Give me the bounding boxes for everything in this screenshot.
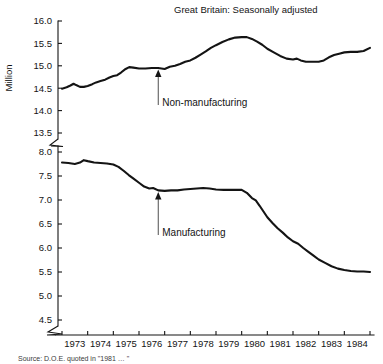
y-tick-label: 6.5	[39, 218, 52, 229]
x-tick-label: 1981	[270, 338, 291, 349]
series-label-manufacturing: Manufacturing	[162, 227, 225, 238]
y-tick-label: 5.0	[39, 290, 52, 301]
x-tick-label: 1984	[347, 338, 368, 349]
y-tick-label: 15.0	[34, 60, 53, 71]
chart-title: Great Britain: Seasonally adjusted	[174, 4, 318, 15]
series-label-non-manufacturing: Non-manufacturing	[162, 97, 247, 108]
y-axis-ticklabels-lower: 8.07.57.06.56.05.55.04.5	[39, 146, 52, 325]
y-tick-label: 14.0	[34, 105, 53, 116]
x-tick-label: 1979	[218, 338, 239, 349]
x-axis-ticklabels: 1973197419751976197719781979198019811982…	[64, 338, 367, 349]
y-tick-label: 7.5	[39, 170, 52, 181]
y-tick-label: 7.0	[39, 194, 52, 205]
data-line-manufacturing	[62, 160, 370, 272]
x-tick-label: 1974	[90, 338, 111, 349]
y-axis-tickmarks	[58, 21, 62, 320]
x-tick-label: 1973	[64, 338, 85, 349]
source-note: Source: D.O.E. quoted in "1981 … "	[18, 355, 130, 363]
x-tick-label: 1977	[167, 338, 188, 349]
x-tick-label: 1983	[321, 338, 342, 349]
y-tick-label: 4.5	[39, 314, 52, 325]
x-axis-break-icon	[47, 326, 62, 335]
y-tick-label: 13.5	[34, 127, 53, 138]
x-tick-label: 1975	[116, 338, 137, 349]
y-tick-label: 6.0	[39, 242, 52, 253]
annotation-arrow-non-manufacturing	[155, 70, 161, 78]
y-axis-break-icon	[50, 139, 63, 147]
chart-container: Great Britain: Seasonally adjusted Milli…	[0, 0, 383, 364]
y-axis-ticklabels-upper: 16.015.515.014.514.013.5	[34, 15, 53, 138]
y-tick-label: 5.5	[39, 266, 52, 277]
y-tick-label: 14.5	[34, 83, 53, 94]
y-axis-title: Million	[3, 65, 14, 92]
x-axis-tickmarks	[62, 331, 370, 335]
employment-line-chart: Great Britain: Seasonally adjusted Milli…	[0, 0, 383, 364]
x-tick-label: 1978	[193, 338, 214, 349]
x-tick-label: 1976	[141, 338, 162, 349]
x-tick-label: 1982	[295, 338, 316, 349]
y-tick-label: 8.0	[39, 146, 52, 157]
annotation-arrow-manufacturing	[155, 192, 161, 200]
y-tick-label: 15.5	[34, 38, 53, 49]
x-tick-label: 1980	[244, 338, 265, 349]
data-line-non-manufacturing	[62, 37, 370, 89]
y-tick-label: 16.0	[34, 15, 53, 26]
